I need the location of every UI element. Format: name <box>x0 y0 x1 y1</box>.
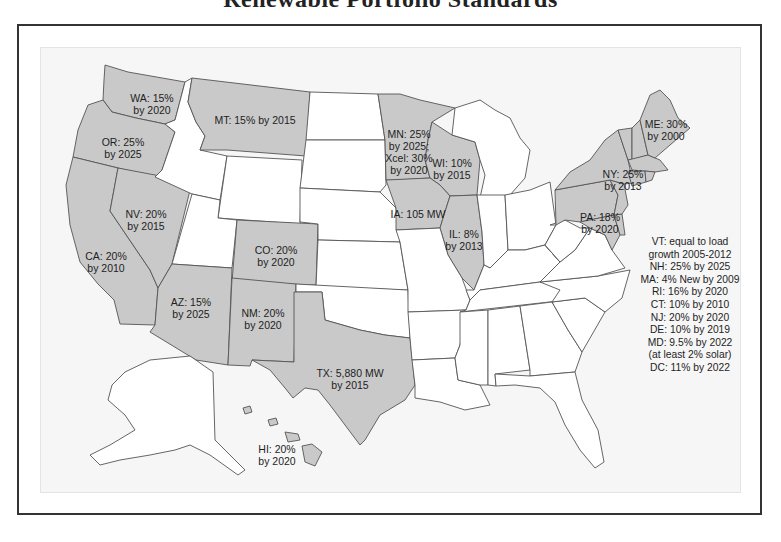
state-MS <box>455 310 488 385</box>
label-TX: TX: 5,880 MW by 2015 <box>316 367 383 391</box>
label-MT-line1: MT: 15% by 2015 <box>214 114 295 126</box>
label-MN: MN: 25% by 2025; Xcel: 30% by 2020 <box>385 128 432 176</box>
label-CO: CO: 20% by 2020 <box>255 244 298 268</box>
label-WA: WA: 15% by 2020 <box>130 92 173 116</box>
legend-line: growth 2005-2012 <box>640 249 739 262</box>
label-NM: NM: 20% by 2020 <box>241 307 284 331</box>
label-IA: IA: 105 MW <box>391 208 446 220</box>
legend-line: VT: equal to load <box>640 236 739 249</box>
label-ME-line1: ME: 30% <box>645 118 688 130</box>
label-TX-line2: by 2015 <box>316 379 383 391</box>
label-MT: MT: 15% by 2015 <box>214 114 295 126</box>
northeast-legend: VT: equal to load growth 2005-2012 NH: 2… <box>640 236 739 375</box>
legend-line: DC: 11% by 2022 <box>640 362 739 375</box>
state-FL <box>495 372 604 468</box>
state-AK <box>90 356 245 475</box>
label-CO-line1: CO: 20% <box>255 244 298 256</box>
label-HI-line1: HI: 20% <box>258 443 295 455</box>
state-IA <box>386 178 450 230</box>
label-ME-line2: by 2000 <box>645 130 688 142</box>
legend-line: NH: 25% by 2025 <box>640 261 739 274</box>
legend-line: NJ: 20% by 2020 <box>640 312 739 325</box>
label-CO-line2: by 2020 <box>255 256 298 268</box>
label-MN-line2: by 2025; <box>385 140 432 152</box>
label-IL: IL: 8% by 2013 <box>445 228 482 252</box>
label-NY-line2: by 2013 <box>603 180 644 192</box>
label-OR-line2: by 2025 <box>102 148 145 160</box>
label-OR-line1: OR: 25% <box>102 136 145 148</box>
state-HI-maui <box>285 432 300 442</box>
label-WA-line1: WA: 15% <box>130 92 173 104</box>
label-IL-line1: IL: 8% <box>445 228 482 240</box>
label-IL-line2: by 2013 <box>445 240 482 252</box>
legend-line: RI: 16% by 2020 <box>640 286 739 299</box>
state-RI <box>645 171 655 182</box>
label-ME: ME: 30% by 2000 <box>645 118 688 142</box>
label-NV-line2: by 2015 <box>125 220 166 232</box>
state-ND <box>306 92 385 140</box>
state-WY <box>218 156 302 224</box>
label-WA-line2: by 2020 <box>130 104 173 116</box>
label-PA-line1: PA: 18% <box>580 211 620 223</box>
label-NY-line1: NY: 25% <box>603 168 644 180</box>
label-OR: OR: 25% by 2025 <box>102 136 145 160</box>
label-AZ: AZ: 15% by 2025 <box>171 296 211 320</box>
legend-line: (at least 2% solar) <box>640 349 739 362</box>
label-NV-line1: NV: 20% <box>125 208 166 220</box>
label-MN-line1: MN: 25% <box>385 128 432 140</box>
label-MN-line3: Xcel: 30% <box>385 152 432 164</box>
legend-line: MA: 4% New by 2009 <box>640 274 739 287</box>
label-CA: CA: 20% by 2010 <box>85 250 126 274</box>
label-CA-line1: CA: 20% <box>85 250 126 262</box>
label-NY: NY: 25% by 2013 <box>603 168 644 192</box>
label-WI-line2: by 2015 <box>432 169 472 181</box>
label-CA-line2: by 2010 <box>85 262 126 274</box>
label-PA: PA: 18% by 2020 <box>580 211 620 235</box>
legend-line: MD: 9.5% by 2022 <box>640 337 739 350</box>
label-AZ-line2: by 2025 <box>171 308 211 320</box>
legend-line: DE: 10% by 2019 <box>640 324 739 337</box>
state-KS <box>316 240 408 290</box>
label-NM-line1: NM: 20% <box>241 307 284 319</box>
state-HI-kauai <box>243 406 252 414</box>
state-SD <box>300 140 386 192</box>
label-NM-line2: by 2020 <box>241 319 284 331</box>
label-WI-line1: WI: 10% <box>432 157 472 169</box>
label-HI-line2: by 2020 <box>258 455 295 467</box>
label-TX-line1: TX: 5,880 MW <box>316 367 383 379</box>
label-PA-line2: by 2020 <box>580 223 620 235</box>
label-MN-line4: by 2020 <box>385 164 432 176</box>
label-NV: NV: 20% by 2015 <box>125 208 166 232</box>
label-AZ-line1: AZ: 15% <box>171 296 211 308</box>
state-HI-oahu <box>268 418 278 426</box>
state-HI-big-island <box>302 444 322 466</box>
label-WI: WI: 10% by 2015 <box>432 157 472 181</box>
label-IA-line1: IA: 105 MW <box>391 208 446 220</box>
legend-line: CT: 10% by 2010 <box>640 299 739 312</box>
label-HI: HI: 20% by 2020 <box>258 443 295 467</box>
